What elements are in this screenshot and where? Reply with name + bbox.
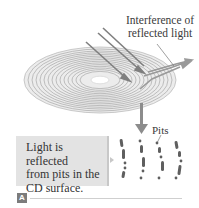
panel-divider: [30, 198, 182, 199]
interference-label: Interference of reflected light: [122, 14, 198, 40]
panel-tag: A: [17, 193, 27, 203]
cd-reflection-figure: Interference of reflected light Pits Lig…: [0, 0, 199, 208]
callout-pointer: [110, 157, 114, 163]
compact-disc: [24, 47, 176, 113]
callout-line3: CD surface.: [26, 182, 103, 196]
interference-label-line1: Interference of: [122, 14, 198, 27]
callout-line2: from pits in the: [26, 168, 103, 182]
pits-label: Pits: [152, 124, 169, 136]
callout-line1: Light is reflected: [26, 141, 103, 168]
callout-box: Light is reflected from pits in the CD s…: [16, 136, 109, 186]
interference-label-line2: reflected light: [122, 27, 198, 40]
pit-tracks: [119, 139, 182, 180]
